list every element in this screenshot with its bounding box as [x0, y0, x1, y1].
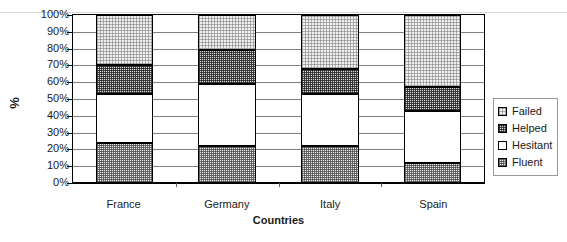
bar-segment-hesitant[interactable] [404, 111, 462, 163]
y-axis-tick-mark [67, 49, 72, 50]
y-axis-tick-mark [67, 149, 72, 150]
scan-artifact [0, 12, 567, 13]
x-axis-tick-labels: FranceGermanyItalySpain [72, 196, 485, 212]
bar-segment-failed[interactable] [96, 15, 154, 65]
bar-segment-fluent[interactable] [301, 146, 359, 183]
y-axis-tick-label: 30% [47, 126, 69, 138]
y-axis-tick-label: 90% [47, 25, 69, 37]
legend-item-helped[interactable]: Helped [498, 120, 552, 137]
plot-area [72, 14, 485, 184]
y-axis-tick-mark [67, 99, 72, 100]
x-axis-tick-label: Spain [382, 196, 485, 212]
x-axis-line [73, 182, 484, 183]
chart-root: % 0%10%20%30%40%50%60%70%80%90%100% Fran… [0, 0, 567, 242]
bar-segment-helped[interactable] [96, 65, 154, 94]
bar-group [73, 15, 484, 183]
legend-item-failed[interactable]: Failed [498, 103, 552, 120]
y-axis-tick-label: 0% [53, 176, 69, 188]
legend-swatch-failed-icon [498, 107, 507, 116]
bar-segment-failed[interactable] [301, 15, 359, 69]
x-axis-tick-mark [381, 183, 382, 187]
y-axis-tick-label: 70% [47, 58, 69, 70]
y-axis-tick-mark [67, 82, 72, 83]
y-axis-tick-mark [67, 166, 72, 167]
legend-swatch-hesitant-icon [498, 141, 507, 150]
x-axis-tick-label: Italy [279, 196, 382, 212]
y-axis-tick-label: 60% [47, 75, 69, 87]
bar-segment-hesitant[interactable] [96, 94, 154, 143]
y-axis-tick-labels: 0%10%20%30%40%50%60%70%80%90%100% [26, 8, 72, 190]
bar-segment-fluent[interactable] [198, 146, 256, 183]
bar-segment-hesitant[interactable] [198, 84, 256, 145]
legend-item-fluent[interactable]: Fluent [498, 154, 552, 171]
y-axis-tick-label: 10% [47, 159, 69, 171]
bar-slot [176, 15, 279, 183]
bar-slot [381, 15, 484, 183]
y-axis-tick-label: 100% [41, 8, 69, 20]
legend-swatch-helped-icon [498, 124, 507, 133]
y-axis-tick-mark [67, 116, 72, 117]
legend-item-label: Hesitant [512, 140, 552, 151]
y-axis-tick-mark [67, 183, 72, 184]
x-axis-title: Countries [72, 214, 485, 226]
legend-item-label: Fluent [512, 157, 543, 168]
y-axis-tick-label: 50% [47, 92, 69, 104]
x-axis-tick-label: Germany [175, 196, 278, 212]
y-axis-tick-mark [67, 65, 72, 66]
chart-legend: FailedHelpedHesitantFluent [493, 98, 558, 176]
y-axis-tick-label: 40% [47, 109, 69, 121]
legend-item-hesitant[interactable]: Hesitant [498, 137, 552, 154]
x-axis-tick-label: France [72, 196, 175, 212]
bar-segment-failed[interactable] [198, 15, 256, 50]
bar-segment-fluent[interactable] [96, 143, 154, 183]
legend-item-label: Failed [512, 106, 542, 117]
x-axis-tick-mark [176, 183, 177, 187]
bar-segment-helped[interactable] [198, 50, 256, 85]
y-axis-tick-label: 20% [47, 142, 69, 154]
stacked-bar[interactable] [404, 15, 462, 183]
bar-segment-failed[interactable] [404, 15, 462, 87]
bar-segment-helped[interactable] [404, 87, 462, 111]
x-axis-tick-mark [279, 183, 280, 187]
legend-swatch-fluent-icon [498, 158, 507, 167]
y-axis-tick-mark [67, 15, 72, 16]
bar-slot [73, 15, 176, 183]
y-axis-tick-mark [67, 133, 72, 134]
legend-item-label: Helped [512, 123, 547, 134]
y-axis-tick-mark [67, 32, 72, 33]
stacked-bar[interactable] [301, 15, 359, 183]
stacked-bar[interactable] [96, 15, 154, 183]
bar-segment-fluent[interactable] [404, 163, 462, 183]
y-axis-tick-label: 80% [47, 42, 69, 54]
bar-slot [279, 15, 382, 183]
stacked-bar[interactable] [198, 15, 256, 183]
bar-segment-helped[interactable] [301, 69, 359, 94]
bar-segment-hesitant[interactable] [301, 94, 359, 146]
